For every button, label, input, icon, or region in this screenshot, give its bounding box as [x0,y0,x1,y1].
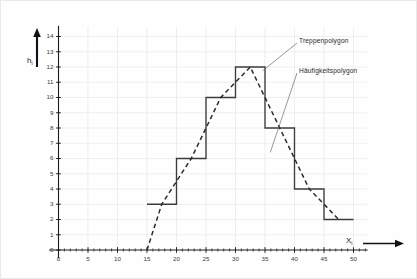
x-axis-arrow-head [395,240,404,248]
x-tick-label: 50 [345,256,363,262]
y-tick-label: 8 [39,125,54,131]
x-tick-label: 15 [138,256,156,262]
x-tick-label: 10 [109,256,127,262]
y-tick-label: 6 [39,155,54,161]
y-tick-label: 11 [39,79,54,85]
x-tick-label: 0 [50,256,68,262]
x-tick-label: 35 [256,256,274,262]
haeufigkeitspolygon-label: Häufigkeitspolygon [299,67,357,74]
x-axis-label: Xi [346,236,352,245]
x-tick-label: 45 [315,256,333,262]
y-tick-label: 2 [39,216,54,222]
y-tick-label: 3 [39,201,54,207]
axis-lines [33,26,404,259]
chart-canvas [1,1,417,279]
x-tick-label: 20 [168,256,186,262]
y-axis-label: hi [27,56,33,65]
x-tick-label: 25 [197,256,215,262]
y-tick-label: 10 [39,94,54,100]
y-tick-label: 7 [39,140,54,146]
y-tick-label: 5 [39,171,54,177]
treppenpolygon-label: Treppenpolygon [299,37,349,44]
y-tick-label: 14 [39,33,54,39]
x-tick-label: 5 [79,256,97,262]
y-tick-label: 4 [39,186,54,192]
y-tick-label: 13 [39,49,54,55]
y-tick-label: 12 [39,64,54,70]
treppenpolygon-leader-line [263,43,297,71]
chart-figure: hi Xi Treppenpolygon Häufigkeitspolygon … [0,0,417,279]
y-tick-label: 1 [39,232,54,238]
x-tick-label: 30 [227,256,245,262]
y-tick-label: 9 [39,110,54,116]
y-tick-label: 0 [39,247,54,253]
x-tick-label: 40 [286,256,304,262]
